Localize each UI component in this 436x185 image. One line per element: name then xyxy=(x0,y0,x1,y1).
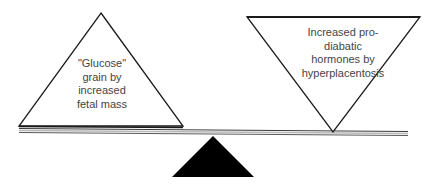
balance-beam xyxy=(19,129,408,136)
balance-diagram: "Glucose" grain by increased fetal mass … xyxy=(0,0,436,185)
left-weight-label: "Glucose" grain by increased fetal mass xyxy=(56,57,148,111)
left-weight-base-shadow xyxy=(19,127,183,128)
right-weight-label: Increased pro- diabatic hormones by hype… xyxy=(288,26,398,80)
fulcrum-triangle xyxy=(172,136,254,177)
